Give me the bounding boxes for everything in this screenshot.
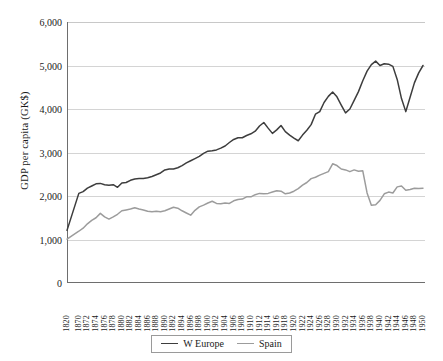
x-axis-tick-label: 1884 [135,315,143,332]
x-axis-tick-label: 1914 [264,315,272,332]
legend-line-swatch [161,343,178,344]
x-axis-tick-label: 1934 [350,315,358,332]
y-axis-title: GDP per capita (GK$) [19,71,30,211]
y-axis-tick-label: 3,000 [28,147,62,158]
gdp-per-capita-line-chart: GDP per capita (GK$) 6,0005,0004,0003,00… [0,0,443,361]
x-axis-tick-label: 1910 [247,315,255,332]
x-axis-tick-label: 1904 [221,315,229,332]
x-axis-tick-label: 1944 [393,315,401,332]
x-axis-tick-label: 1940 [376,315,384,332]
plot-area [67,22,425,283]
x-axis-tick-label: 1894 [178,315,186,332]
series-line-w-europe [67,61,423,230]
series-lines [67,22,425,283]
legend-label: Spain [259,338,282,349]
x-axis-tick-label: 1874 [92,315,100,332]
x-axis-tick-label: 1930 [333,315,341,332]
x-axis-tick-label: 1950 [419,315,427,332]
y-axis-tick-label: 4,000 [28,104,62,115]
y-axis-tick-label: 6,000 [28,17,62,28]
x-axis-tick-label: 1924 [307,315,315,332]
y-axis-tick-label: 1,000 [28,234,62,245]
legend: W EuropeSpain [0,335,443,353]
legend-label: W Europe [183,338,224,349]
legend-item-spain[interactable]: Spain [237,338,282,349]
legend-item-w-europe[interactable]: W Europe [161,338,224,349]
y-axis-tick-label: 5,000 [28,60,62,71]
x-axis-tick-label: 1820 [63,315,71,332]
y-axis-tick-label: 0 [28,278,62,289]
series-line-spain [67,164,423,239]
x-axis-tick-labels: 1820187018721874187618781880188218841886… [67,286,425,332]
y-axis-tick-label: 2,000 [28,191,62,202]
legend-line-swatch [237,343,254,344]
x-axis-tick-label: 1920 [290,315,298,332]
legend-box: W EuropeSpain [151,335,291,353]
